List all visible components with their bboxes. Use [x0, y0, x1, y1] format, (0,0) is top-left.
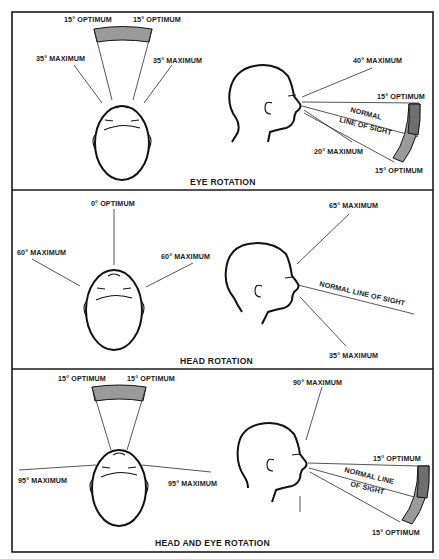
- side-label-90-max: 90° MAXIMUM: [293, 378, 342, 387]
- side-label-40-max: 40° MAXIMUM: [353, 56, 402, 65]
- side-label-20-max: 20° MAXIMUM: [314, 147, 363, 156]
- side-label-optimum-top: 15° OPTIMUM: [373, 454, 421, 463]
- side-label-line-of-sight: LINE OF SIGHT: [339, 115, 394, 137]
- top-view-head: 15° OPTIMUM 15° OPTIMUM 35° MAXIMUM 35° …: [36, 15, 202, 180]
- side-view-head: 90° MAXIMUM 15° OPTIMUM NORMAL LINE OF S…: [238, 378, 430, 537]
- panel-head-rotation: 0° OPTIMUM 60° MAXIMUM 60° MAXIMUM 65° M…: [17, 199, 414, 366]
- optimum-band: [94, 27, 152, 43]
- top-view-head: 0° OPTIMUM 60° MAXIMUM 60° MAXIMUM: [17, 199, 210, 350]
- top-label-optimum-right: 15° OPTIMUM: [133, 15, 181, 24]
- side-label-35-max: 35° MAXIMUM: [329, 351, 378, 360]
- top-label-optimum-left: 15° OPTIMUM: [64, 15, 112, 24]
- head-side-icon: [226, 243, 299, 324]
- side-label-optimum-bottom: 15° OPTIMUM: [375, 166, 423, 175]
- top-label-optimum-left: 15° OPTIMUM: [58, 374, 106, 383]
- top-label-0-optimum: 0° OPTIMUM: [91, 199, 135, 208]
- top-label-max-right: 60° MAXIMUM: [161, 252, 210, 261]
- top-label-max-right: 35° MAXIMUM: [153, 56, 202, 65]
- head-top-icon: [92, 450, 146, 526]
- panel-caption: HEAD ROTATION: [180, 356, 253, 366]
- panel-eye-rotation: 15° OPTIMUM 15° OPTIMUM 35° MAXIMUM 35° …: [36, 15, 425, 187]
- top-label-optimum-right: 15° OPTIMUM: [127, 374, 175, 383]
- head-side-icon: [238, 423, 307, 502]
- panel-caption: EYE ROTATION: [190, 177, 256, 187]
- head-top-icon: [86, 270, 142, 350]
- panel-caption: HEAD AND EYE ROTATION: [155, 538, 270, 548]
- side-label-optimum-top: 15° OPTIMUM: [377, 92, 425, 101]
- panel-head-and-eye-rotation: 15° OPTIMUM 15° OPTIMUM 95° MAXIMUM 95° …: [18, 374, 429, 548]
- side-label-65-max: 65° MAXIMUM: [329, 201, 378, 210]
- top-label-max-right: 95° MAXIMUM: [168, 479, 217, 488]
- side-view-head: 65° MAXIMUM NORMAL LINE OF SIGHT 35° MAX…: [226, 201, 414, 360]
- side-view-head: 40° MAXIMUM 15° OPTIMUM NORMAL LINE OF S…: [229, 56, 425, 175]
- optimum-band: [92, 385, 146, 401]
- side-label-optimum-bottom: 15° OPTIMUM: [372, 528, 420, 537]
- top-label-max-left: 35° MAXIMUM: [36, 54, 85, 63]
- rotation-diagram: 15° OPTIMUM 15° OPTIMUM 35° MAXIMUM 35° …: [0, 0, 439, 559]
- top-label-max-left: 60° MAXIMUM: [17, 248, 66, 257]
- top-view-head: 15° OPTIMUM 15° OPTIMUM 95° MAXIMUM 95° …: [18, 374, 217, 526]
- head-top-icon: [95, 106, 149, 180]
- head-side-icon: [229, 65, 300, 142]
- top-label-max-left: 95° MAXIMUM: [18, 476, 67, 485]
